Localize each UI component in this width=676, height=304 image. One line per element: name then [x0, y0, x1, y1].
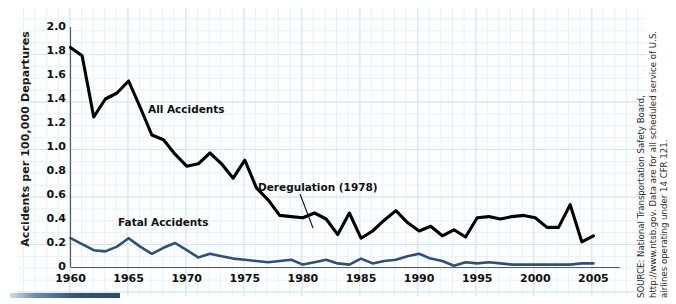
annotation-deregulation: Deregulation (1978): [258, 181, 378, 193]
source-note-rotator: SOURCE: National Transportation Safety B…: [636, 8, 676, 298]
series-lines: [71, 47, 594, 265]
fatal-accidents-line: [71, 238, 594, 266]
deregulation-leader-line: [300, 194, 313, 228]
source-note: SOURCE: National Transportation Safety B…: [636, 8, 676, 298]
series-label-all-accidents: All Accidents: [148, 103, 225, 115]
chart-page: Accidents per 100,000 Departures 00.20.4…: [0, 0, 676, 304]
source-note-text: SOURCE: National Transportation Safety B…: [636, 8, 671, 298]
axis-lines: [71, 27, 621, 268]
chart-plot-area: [0, 0, 676, 304]
accent-bar: [10, 293, 120, 298]
all-accidents-line: [71, 47, 594, 241]
series-label-fatal-accidents: Fatal Accidents: [118, 216, 209, 228]
deregulation-pointer: [300, 194, 313, 228]
